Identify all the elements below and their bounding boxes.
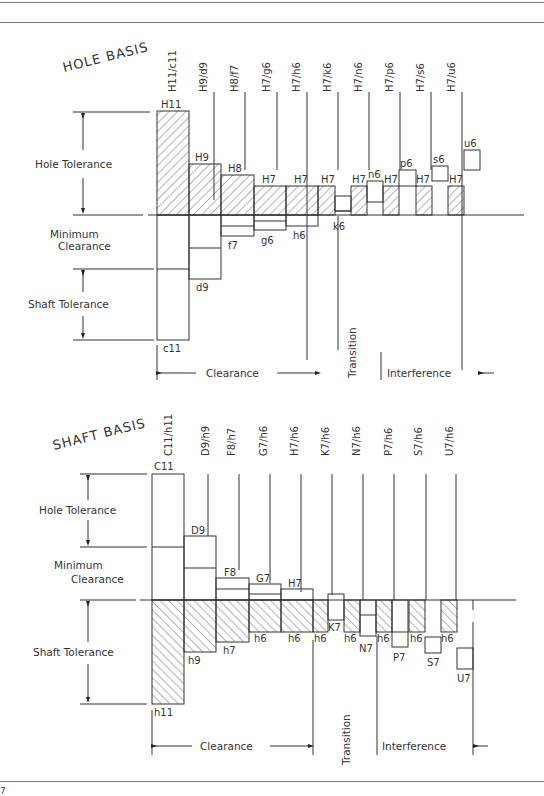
shaft-label: g6	[261, 235, 274, 246]
shaft-basis-fit-labels: C11/h11 D9/h9 F8/h7 G7/h6 H7/h6 K7/h6 N7…	[163, 414, 455, 456]
fit-label: H7/p6	[384, 62, 395, 92]
fit-label: C11/h11	[163, 414, 174, 456]
shaft-label: s6	[433, 154, 445, 165]
hole-basis-title: HOLE BASIS	[61, 39, 150, 75]
hole-label: K7	[328, 622, 341, 633]
fit-label: H7/u6	[446, 62, 457, 92]
fit-label: H7/s6	[415, 63, 426, 92]
shaft-label: c11	[163, 343, 181, 354]
fit-label: H7/h6	[291, 62, 302, 92]
fit-label: K7/h6	[320, 427, 331, 456]
fit-label: H8/f7	[229, 65, 240, 92]
shaft-label: k6	[333, 221, 345, 232]
fit-label: G7/h6	[258, 426, 269, 456]
shaft-label: n6	[368, 169, 381, 180]
fit-label: H7/k6	[322, 63, 333, 92]
fit-label: N7/h6	[351, 426, 362, 456]
shaft-basis-diagram: SHAFT BASIS C11/h11 D9/h9 F8/h7 G7/h6 H7…	[33, 414, 516, 766]
zone-clearance: Clearance	[206, 367, 259, 379]
shaft-label: h6	[377, 633, 390, 644]
shaft-label: h6	[410, 633, 423, 644]
hole-label: D9	[191, 525, 205, 536]
shaft-label: d9	[196, 282, 209, 293]
hole-basis-fit-labels: H11/c11 H9/d9 H8/f7 H7/g6 H7/h6 H7/k6 H7…	[167, 50, 457, 92]
hole-label: H7	[416, 174, 430, 185]
hole-label: H7	[449, 174, 463, 185]
shaft-label: f7	[228, 240, 238, 251]
hole-label: H11	[161, 99, 181, 110]
fit-label: P7/h6	[383, 428, 394, 456]
zone-transition: Transition	[340, 714, 352, 766]
shaft-label: h6	[293, 230, 306, 241]
zone-transition: Transition	[346, 327, 358, 379]
shaft-label: h6	[288, 633, 301, 644]
zone-interference: Interference	[387, 367, 451, 379]
hole-label: H7	[294, 174, 308, 185]
zone-clearance: Clearance	[200, 740, 253, 752]
hole-tolerance-label: Hole Tolerance	[35, 158, 112, 170]
shaft-label: h7	[223, 645, 236, 656]
shaft-label: h11	[154, 707, 173, 718]
fit-label: D9/h9	[200, 426, 211, 456]
hole-label: U7	[457, 673, 471, 684]
hole-label: S7	[427, 657, 440, 668]
fit-label: S7/h6	[413, 427, 424, 456]
fit-label: H11/c11	[167, 50, 178, 92]
fit-label: H7/h6	[289, 426, 300, 456]
minimum-clearance-label: Clearance	[58, 240, 111, 252]
fit-label: U7/h6	[444, 426, 455, 456]
fit-label: F8/h7	[226, 428, 237, 456]
hole-basis-diagram: HOLE BASIS H11/c11 H9/d9 H8/f7 H7/g6 H7/…	[28, 39, 524, 380]
shaft-label: h6	[314, 633, 327, 644]
fits-diagram: HOLE BASIS H11/c11 H9/d9 H8/f7 H7/g6 H7/…	[0, 0, 544, 796]
shaft-label: p6	[400, 158, 413, 169]
hole-label: F8	[224, 567, 236, 578]
shaft-label: h6	[441, 633, 454, 644]
fit-label: H7/n6	[353, 62, 364, 92]
hole-label: H7	[384, 174, 398, 185]
hole-label: H9	[195, 152, 209, 163]
shaft-label: u6	[464, 138, 477, 149]
fit-label: H9/d9	[198, 62, 209, 92]
hole-label: N7	[359, 643, 373, 654]
hole-label: G7	[256, 573, 270, 584]
zone-interference: Interference	[382, 740, 446, 752]
hole-label: H7	[352, 174, 366, 185]
hole-label: H7	[321, 174, 335, 185]
shaft-tolerance-label: Shaft Tolerance	[28, 298, 109, 310]
hole-label: H7	[288, 578, 302, 589]
minimum-clearance-label: Minimum	[50, 228, 99, 240]
minimum-clearance-label: Minimum	[54, 559, 103, 571]
shaft-label: h6	[344, 633, 357, 644]
hole-label: C11	[154, 461, 174, 472]
minimum-clearance-label: Clearance	[71, 573, 124, 585]
shaft-label: h9	[188, 655, 201, 666]
fit-label: H7/g6	[261, 62, 272, 92]
shaft-basis-title: SHAFT BASIS	[51, 415, 147, 453]
shaft-label: h6	[254, 633, 267, 644]
hole-label: H8	[228, 163, 242, 174]
shaft-tolerance-label: Shaft Tolerance	[33, 646, 114, 658]
hole-label: P7	[393, 652, 405, 663]
hole-label: H7	[262, 174, 276, 185]
hole-tolerance-label: Hole Tolerance	[39, 504, 116, 516]
